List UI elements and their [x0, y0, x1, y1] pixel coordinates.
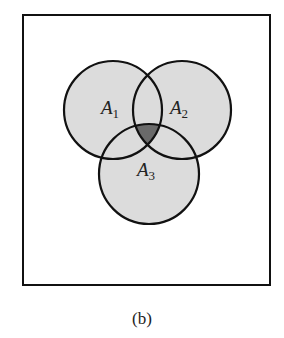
set-label-base: A [137, 159, 149, 180]
set-label-base: A [170, 97, 182, 118]
set-label-a2: A2 [170, 98, 188, 120]
set-label-subscript: 2 [182, 106, 189, 121]
figure-caption: (b) [0, 309, 284, 329]
set-label-base: A [101, 97, 113, 118]
set-label-a1: A1 [101, 98, 119, 120]
set-label-a3: A3 [137, 160, 155, 182]
set-label-subscript: 3 [149, 168, 156, 183]
set-label-subscript: 1 [113, 106, 120, 121]
